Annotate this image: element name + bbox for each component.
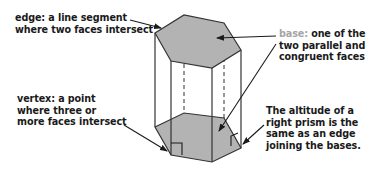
edge-label: edge: a line segment where two faces int…: [15, 12, 153, 35]
base-label: base: one of the two parallel and congru…: [279, 28, 365, 63]
vertex-label: vertex: a point where three or more face…: [17, 93, 127, 128]
altitude-label: The altitude of a right prism is the sam…: [266, 105, 361, 151]
bottom-base: [155, 113, 241, 162]
top-base: [155, 15, 241, 68]
altitude-arrow: [243, 125, 264, 144]
